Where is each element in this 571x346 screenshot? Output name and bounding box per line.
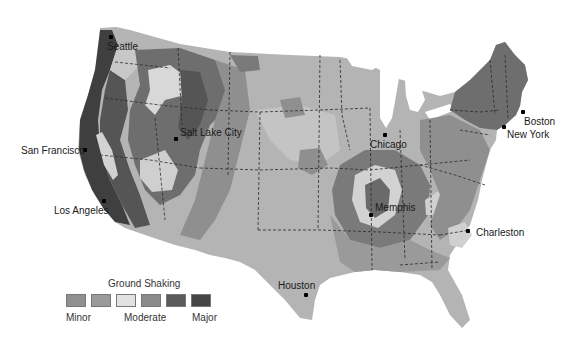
city-label-chicago: Chicago [370, 140, 407, 150]
legend-title: Ground Shaking [108, 278, 180, 289]
city-label-charleston: Charleston [476, 228, 524, 238]
city-dot-seattle [109, 35, 113, 39]
legend-label-major: Major [192, 312, 217, 323]
legend-swatch-4 [141, 294, 161, 307]
northeast-dark-zone [450, 42, 528, 130]
city-label-memphis: Memphis [375, 203, 416, 213]
city-label-los-angeles: Los Angeles [54, 206, 109, 216]
city-label-salt-lake-city: Salt Lake City [180, 128, 242, 138]
legend-label-moderate: Moderate [124, 312, 166, 323]
legend-swatch-1 [66, 294, 86, 307]
city-dot-salt-lake-city [174, 137, 178, 141]
legend-swatches [66, 294, 211, 307]
city-dot-new-york [502, 125, 506, 129]
legend-swatch-6 [191, 294, 211, 307]
city-label-new-york: New York [507, 130, 549, 140]
city-dot-chicago [383, 133, 387, 137]
city-label-boston: Boston [524, 117, 555, 127]
legend-swatch-5 [166, 294, 186, 307]
city-dot-memphis [369, 213, 373, 217]
city-label-seattle: Seattle [107, 42, 138, 52]
legend-swatch-2 [91, 294, 111, 307]
city-label-houston: Houston [278, 281, 315, 291]
legend-swatch-3 [116, 294, 136, 307]
city-dot-charleston [466, 229, 470, 233]
city-label-san-francisco: San Francisco [21, 146, 85, 156]
city-dot-boston [521, 110, 525, 114]
legend-label-minor: Minor [66, 312, 91, 323]
city-dot-los-angeles [102, 199, 106, 203]
city-dot-houston [304, 293, 308, 297]
